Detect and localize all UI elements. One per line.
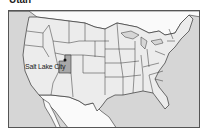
us-map: Salt Lake City	[8, 10, 200, 128]
salt-lake-city-marker	[64, 59, 67, 62]
map-title: Utah	[9, 0, 31, 5]
city-label: Salt Lake City	[25, 63, 65, 70]
